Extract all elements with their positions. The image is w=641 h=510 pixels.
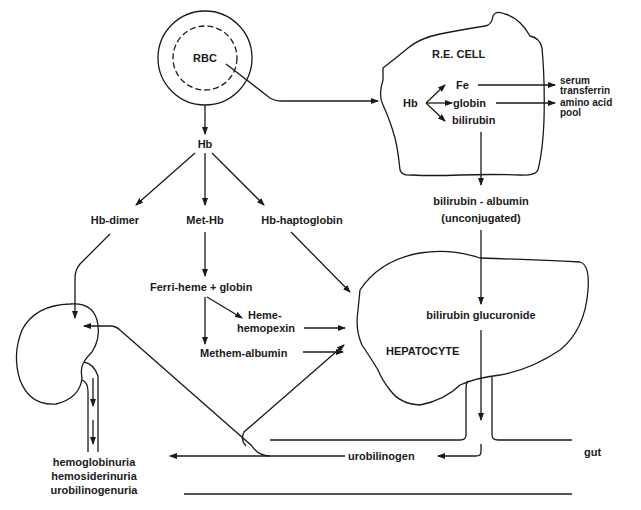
re-cell-label: R.E. CELL	[432, 48, 485, 60]
bilirubin-glucuronide-label: bilirubin glucuronide	[426, 309, 535, 321]
heme-hemopexin-label-1: Heme-	[248, 309, 282, 321]
serum-transferrin-label-2: transferrin	[560, 86, 610, 96]
hb-label: Hb	[198, 138, 213, 150]
met-hb-label: Met-Hb	[186, 214, 223, 226]
re-cell-outline	[381, 12, 545, 175]
unconjugated-label: (unconjugated)	[441, 212, 520, 224]
kidney-outline	[16, 304, 98, 404]
hepatocyte-outline	[357, 251, 588, 405]
re-fe-label: Fe	[456, 79, 469, 91]
urobilinogenuria-label: urobilinogenuria	[51, 484, 138, 496]
bilirubin-albumin-label: bilirubin - albumin	[433, 195, 528, 207]
re-globin-label: globin	[453, 97, 486, 109]
rbc-label: RBC	[193, 52, 217, 64]
hemoglobinuria-label: hemoglobinuria	[53, 456, 136, 468]
urobilinogen-label: urobilinogen	[348, 450, 415, 462]
ferri-heme-label: Ferri-heme + globin	[150, 281, 252, 293]
hb-haptoglobin-label: Hb-haptoglobin	[261, 214, 342, 226]
diagram-canvas: RBC Hb Hb-dimer Met-Hb Hb-haptoglobin Fe…	[0, 0, 641, 510]
methem-albumin-label: Methem-albumin	[200, 347, 287, 359]
amino-acid-pool-label-2: pool	[560, 108, 581, 118]
gut-label: gut	[584, 446, 601, 458]
hemosiderinuria-label: hemosiderinuria	[51, 470, 137, 482]
re-hb-label: Hb	[403, 97, 418, 109]
heme-hemopexin-label-2: hemopexin	[237, 322, 295, 334]
re-bilirubin-label: bilirubin	[452, 114, 495, 126]
hb-dimer-label: Hb-dimer	[91, 214, 139, 226]
hepatocyte-label: HEPATOCYTE	[386, 345, 459, 357]
diagram-lines	[0, 0, 641, 510]
